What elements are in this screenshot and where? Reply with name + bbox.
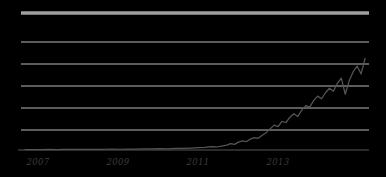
line-chart: 2007200920112013 bbox=[0, 0, 386, 177]
x-tick-label-2013: 2013 bbox=[265, 157, 289, 167]
x-tick-label-2009: 2009 bbox=[105, 157, 129, 167]
x-tick-label-2007: 2007 bbox=[25, 157, 49, 167]
chart-container: 2007200920112013 bbox=[0, 0, 386, 177]
x-tick-label-2011: 2011 bbox=[185, 157, 209, 167]
